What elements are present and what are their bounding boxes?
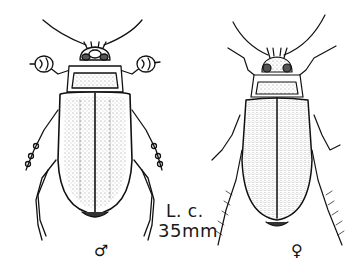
female-beetle bbox=[212, 15, 344, 245]
male-beetle bbox=[26, 20, 163, 240]
species-label: L. c. bbox=[166, 203, 204, 220]
male-symbol-icon: ♂ bbox=[94, 243, 108, 259]
female-symbol-icon: ♀ bbox=[291, 243, 303, 259]
size-label: 35mm bbox=[158, 222, 218, 240]
beetle-illustration: L. c. 35mm ♂ ♀ bbox=[0, 0, 361, 265]
